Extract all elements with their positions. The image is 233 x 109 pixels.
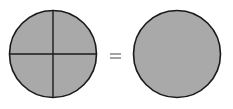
fraction-diagram xyxy=(0,0,233,109)
left-circle-quartered xyxy=(10,11,97,98)
equals-sign xyxy=(110,54,121,58)
right-circle-whole xyxy=(134,11,221,98)
